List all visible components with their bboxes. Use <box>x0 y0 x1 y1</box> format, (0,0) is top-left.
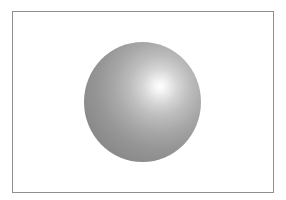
shaded-sphere <box>84 42 201 162</box>
